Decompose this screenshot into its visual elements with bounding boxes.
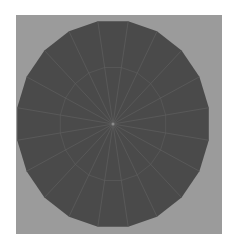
disk-mesh: [0, 0, 230, 248]
center-point: [112, 123, 115, 126]
